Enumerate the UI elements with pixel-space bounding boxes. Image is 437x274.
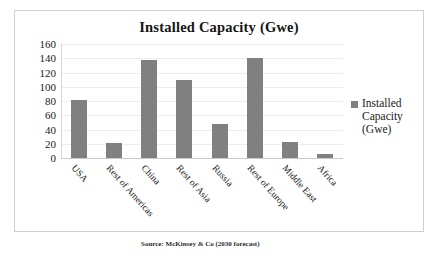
x-axis-category-label: Africa [316, 163, 340, 188]
bar[interactable] [176, 80, 192, 158]
bar[interactable] [317, 154, 333, 158]
y-axis-tick-label: 40 [45, 124, 56, 136]
x-axis-line [61, 158, 343, 159]
x-axis-category-labels: USARest of AmericasChinaRest of AsiaRuss… [61, 160, 343, 230]
bar[interactable] [212, 124, 228, 158]
x-label-slot: Rest of Asia [167, 160, 202, 230]
bar-slot [96, 44, 131, 158]
x-axis-category-label: USA [69, 163, 89, 184]
bar-series [61, 44, 343, 158]
bar-slot [308, 44, 343, 158]
x-label-slot: Rest of Europe [237, 160, 272, 230]
bar[interactable] [141, 60, 157, 158]
legend-label-line-1: Installed [362, 97, 402, 109]
bar[interactable] [282, 142, 298, 158]
bar[interactable] [106, 143, 122, 158]
chart-frame: Installed Capacity (Gwe) 020406080100120… [14, 10, 424, 232]
x-label-slot: Africa [308, 160, 343, 230]
y-axis-tick-label: 120 [40, 67, 57, 79]
x-label-slot: Russia [202, 160, 237, 230]
y-axis-tick-label: 140 [40, 52, 57, 64]
x-label-slot: Rest of Americas [96, 160, 131, 230]
legend-label: Installed Capacity (Gwe) [362, 97, 403, 136]
y-axis-tick-label: 80 [45, 95, 56, 107]
x-axis-category-label: China [140, 163, 163, 187]
bar-slot [167, 44, 202, 158]
source-caption: Source: McKinsey & Co (2030 forecast) [141, 240, 321, 249]
y-axis-tick-label: 60 [45, 109, 56, 121]
bar-slot [273, 44, 308, 158]
bar-slot [132, 44, 167, 158]
bar-slot [61, 44, 96, 158]
y-axis-tick-label: 20 [45, 138, 56, 150]
legend-label-line-2: Capacity [362, 110, 403, 122]
bar[interactable] [247, 58, 263, 158]
legend-label-line-3: (Gwe) [362, 123, 391, 135]
x-label-slot: USA [61, 160, 96, 230]
y-axis-tick-label: 100 [40, 81, 57, 93]
x-label-slot: China [132, 160, 167, 230]
y-axis-tick-label: 0 [51, 152, 57, 164]
chart-legend: Installed Capacity (Gwe) [351, 97, 423, 136]
bar-slot [202, 44, 237, 158]
chart-title: Installed Capacity (Gwe) [15, 19, 423, 36]
x-label-slot: Middle East [273, 160, 308, 230]
x-axis-category-label: Russia [210, 163, 234, 189]
bar-slot [237, 44, 272, 158]
y-axis-tick-label: 160 [40, 38, 57, 50]
figure-container: Installed Capacity (Gwe) 020406080100120… [0, 0, 437, 274]
bar[interactable] [71, 100, 87, 158]
legend-swatch-icon [351, 101, 358, 108]
